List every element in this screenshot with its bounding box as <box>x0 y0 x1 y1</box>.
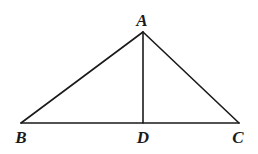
segment-ac <box>143 32 239 123</box>
point-label-d: D <box>136 128 149 147</box>
point-label-c: C <box>232 128 244 147</box>
point-label-a: A <box>135 11 147 30</box>
segment-ab <box>21 32 143 123</box>
triangle-diagram: A B D C <box>0 0 258 154</box>
point-label-b: B <box>14 128 26 147</box>
